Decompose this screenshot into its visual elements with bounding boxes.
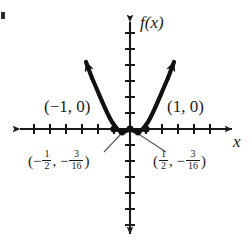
point-left-x-intercept — [110, 125, 117, 132]
right-min-y-numerator: 3 — [186, 149, 200, 161]
label-right-minimum: (12, −316) — [153, 150, 206, 172]
left-min-close-paren: ) — [84, 153, 89, 169]
right-min-x-numerator: 1 — [159, 149, 168, 161]
graph-canvas — [0, 0, 252, 242]
right-min-y-denominator: 16 — [186, 161, 200, 172]
left-min-x-sign: − — [33, 153, 41, 169]
left-min-x-denominator: 2 — [42, 161, 51, 172]
point-right-x-intercept — [142, 125, 149, 132]
leader-left-minimum — [104, 135, 120, 152]
left-min-y-numerator: 3 — [69, 149, 83, 161]
right-min-x-denominator: 2 — [159, 161, 168, 172]
right-min-x-fraction: 12 — [159, 149, 168, 171]
label-left-minimum: (−12, −316) — [28, 150, 89, 172]
left-min-y-fraction: 316 — [69, 149, 83, 171]
left-min-y-denominator: 16 — [69, 161, 83, 172]
x-axis-label: x — [233, 133, 241, 150]
right-min-open-paren: ( — [153, 153, 158, 169]
right-min-close-paren: ) — [201, 153, 206, 169]
right-min-y-sign: − — [177, 153, 185, 169]
right-min-y-fraction: 316 — [186, 149, 200, 171]
point-origin — [126, 125, 133, 132]
left-min-x-numerator: 1 — [42, 149, 51, 161]
left-min-comma: , — [52, 153, 56, 169]
left-min-x-fraction: 12 — [42, 149, 51, 171]
label-right-x-intercept: (1, 0) — [167, 98, 204, 115]
left-min-y-sign: − — [60, 153, 68, 169]
right-min-comma: , — [169, 153, 173, 169]
point-left-minimum — [119, 129, 126, 136]
y-axis-label: f(x) — [140, 14, 164, 31]
point-right-minimum — [135, 129, 142, 136]
label-left-x-intercept: (−1, 0) — [44, 98, 90, 115]
graph-figure: f(x) x (−1, 0) (1, 0) (−12, −316) (12, −… — [0, 0, 252, 242]
